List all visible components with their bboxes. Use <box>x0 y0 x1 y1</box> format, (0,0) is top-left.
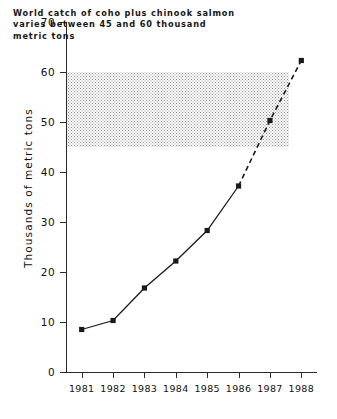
x-tick <box>113 372 114 378</box>
data-point-marker <box>236 183 241 188</box>
x-tick <box>207 372 208 378</box>
y-tick-label: 30 <box>41 216 55 228</box>
x-tick <box>239 372 240 378</box>
salmon-catch-line-chart: Thousands of metric tons 010203040506070… <box>0 0 337 419</box>
x-tick-label: 1987 <box>257 383 282 394</box>
callout-annotation: World catch of coho plus chinook salmonv… <box>13 8 235 42</box>
callout-line: varies between 45 and 60 thousand <box>13 19 235 30</box>
data-point-marker <box>142 285 147 290</box>
x-tick <box>82 372 83 378</box>
data-point-marker <box>79 327 84 332</box>
plot-area: 010203040506070 198119821983198419851986… <box>66 22 317 372</box>
x-tick <box>301 372 302 378</box>
y-tick-label: 10 <box>41 316 55 328</box>
callout-line: World catch of coho plus chinook salmon <box>13 8 235 19</box>
y-tick-label: 60 <box>41 66 55 78</box>
data-point-marker <box>267 118 272 123</box>
y-tick-label: 0 <box>48 366 55 378</box>
line-observed-solid <box>82 186 239 330</box>
y-axis-title: Thousands of metric tons <box>22 88 34 288</box>
x-tick-label: 1985 <box>194 383 219 394</box>
y-tick-label: 50 <box>41 116 55 128</box>
data-series-layer <box>66 22 317 372</box>
x-tick-label: 1981 <box>69 383 94 394</box>
x-tick-label: 1988 <box>289 383 314 394</box>
data-point-marker <box>173 258 178 263</box>
x-axis-line <box>66 372 317 373</box>
data-point-marker <box>299 58 304 63</box>
x-tick-label: 1982 <box>100 383 125 394</box>
data-point-markers <box>79 58 304 332</box>
data-point-marker <box>205 228 210 233</box>
y-tick-label: 20 <box>41 266 55 278</box>
x-tick <box>144 372 145 378</box>
y-tick: 0 <box>60 372 66 373</box>
x-tick-label: 1983 <box>132 383 157 394</box>
x-tick-label: 1986 <box>226 383 251 394</box>
x-tick <box>176 372 177 378</box>
x-tick-label: 1984 <box>163 383 188 394</box>
callout-line: metric tons <box>13 31 235 42</box>
line-projected-dashed <box>239 61 302 187</box>
x-tick <box>270 372 271 378</box>
y-tick-label: 40 <box>41 166 55 178</box>
data-point-marker <box>110 318 115 323</box>
